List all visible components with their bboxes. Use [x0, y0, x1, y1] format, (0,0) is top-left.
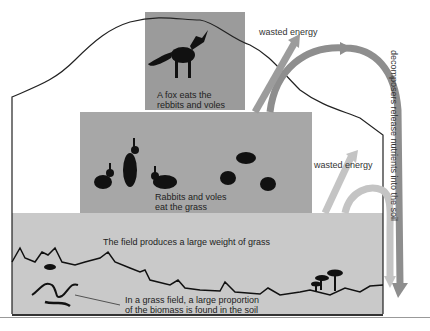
soil-note: In a grass field, a large proportion of … [125, 295, 259, 315]
wasted-energy-middle-label: wasted energy [314, 160, 373, 170]
wasted-energy-top-label: wasted energy [259, 27, 318, 37]
mushroom-icon [311, 270, 343, 292]
decomposer-mid-arrowhead [340, 42, 352, 55]
rabbit-icon [123, 138, 139, 187]
decomposers-line1: decomposers release [389, 50, 399, 136]
fox-icon [148, 30, 208, 78]
field-label: The field produces a large weight of gra… [103, 237, 270, 247]
worm-icon [32, 284, 78, 297]
baseline-divider [0, 317, 430, 318]
soil-note-line1: In a grass field, a large proportion [125, 295, 259, 305]
worm-icon [45, 302, 70, 306]
vole-icon [220, 152, 276, 191]
rabbit-icon [94, 163, 114, 189]
decomposer-arrowhead [392, 283, 408, 298]
soil-note-line2: of the biomass is found in the soil [125, 305, 259, 315]
decomposers-line2: nutrients into the soil [389, 139, 399, 222]
rabbit-label-line1: Rabbits and voles [155, 192, 227, 202]
rabbit-label: Rabbits and voles eat the grass [155, 192, 227, 212]
decomposers-label: decomposers release nutrients into the s… [388, 50, 399, 221]
rabbit-icon [151, 166, 177, 189]
beetle-icon [44, 264, 56, 270]
fox-label: A fox eats the rebbits and voles [157, 90, 225, 110]
grass-line [12, 248, 383, 295]
fox-label-line2: rebbits and voles [157, 100, 225, 110]
rabbit-label-line2: eat the grass [155, 202, 227, 212]
fox-label-line1: A fox eats the [157, 90, 225, 100]
soil-pointer-line [75, 295, 120, 305]
